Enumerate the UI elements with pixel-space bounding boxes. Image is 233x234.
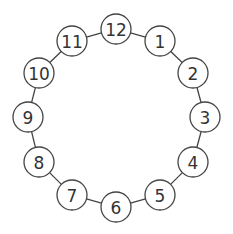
node-5: 5 (145, 180, 175, 210)
node-4: 4 (178, 147, 208, 177)
edge-2-3 (197, 87, 201, 102)
edge-1-2 (171, 51, 182, 62)
node-12: 12 (101, 14, 131, 44)
node-2: 2 (178, 58, 208, 88)
node-label: 4 (188, 153, 199, 173)
node-label: 3 (200, 108, 211, 128)
node-label: 10 (28, 64, 50, 84)
node-8: 8 (24, 147, 54, 177)
edge-3-4 (197, 131, 201, 147)
node-label: 6 (111, 198, 122, 218)
node-label: 12 (105, 20, 127, 40)
node-label: 9 (23, 108, 34, 128)
node-3: 3 (190, 102, 220, 132)
edge-8-9 (32, 132, 36, 148)
edge-5-6 (130, 199, 145, 203)
node-label: 11 (61, 32, 83, 52)
edge-6-7 (86, 199, 101, 203)
node-11: 11 (57, 26, 87, 56)
edge-7-8 (50, 173, 62, 185)
edge-12-1 (130, 33, 145, 37)
node-label: 1 (155, 32, 166, 52)
node-label: 7 (67, 186, 78, 206)
edge-4-5 (171, 173, 183, 185)
edge-11-12 (86, 33, 101, 37)
node-1: 1 (145, 26, 175, 56)
node-label: 8 (34, 153, 45, 173)
edge-10-11 (50, 51, 61, 62)
ring-nodes: 121234567891011 (13, 14, 220, 222)
ring-edges (32, 33, 202, 203)
edge-9-10 (32, 88, 36, 103)
node-label: 2 (188, 64, 199, 84)
node-10: 10 (24, 58, 54, 88)
node-6: 6 (101, 192, 131, 222)
node-9: 9 (13, 102, 43, 132)
clock-ring-diagram: 121234567891011 (0, 0, 233, 234)
node-7: 7 (57, 180, 87, 210)
diagram-canvas: 121234567891011 (0, 0, 233, 234)
node-label: 5 (155, 186, 166, 206)
